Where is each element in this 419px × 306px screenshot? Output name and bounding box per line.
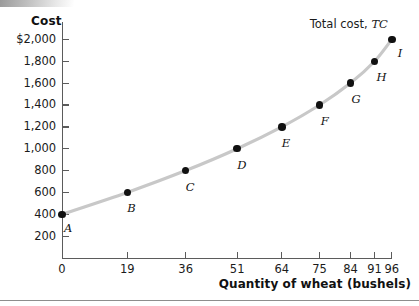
data-point-i <box>388 36 396 44</box>
data-point-d <box>233 145 241 153</box>
bottom-rule <box>0 300 419 301</box>
x-axis-title: Quantity of wheat (bushels) <box>219 277 411 291</box>
x-tick <box>350 252 351 258</box>
y-tick <box>63 83 69 84</box>
x-tick-label: 91 <box>367 262 382 276</box>
series-annotation: Total cost, TC <box>310 17 388 31</box>
data-point-g <box>347 79 355 87</box>
x-tick-label: 51 <box>230 262 245 276</box>
x-tick-label: 19 <box>120 262 135 276</box>
x-tick-label: 64 <box>275 262 290 276</box>
x-tick-label: 36 <box>178 262 193 276</box>
x-tick <box>237 252 238 258</box>
series-annotation-symbol: TC <box>371 17 387 31</box>
data-point-label-f: F <box>321 114 329 128</box>
data-point-f <box>316 101 324 109</box>
chart-figure: Cost Quantity of wheat (bushels) 2004006… <box>0 0 419 306</box>
data-point-h <box>371 58 379 66</box>
x-tick-label: 75 <box>312 262 327 276</box>
data-point-label-i: I <box>398 46 403 60</box>
data-point-label-h: H <box>377 70 387 84</box>
y-tick-label: 1,600 <box>0 76 56 90</box>
y-tick <box>63 236 69 237</box>
y-tick <box>63 104 69 105</box>
x-tick <box>374 252 375 258</box>
y-tick-label: 200 <box>0 229 56 243</box>
y-tick <box>63 148 69 149</box>
x-tick <box>185 252 186 258</box>
y-tick-label: 1,000 <box>0 141 56 155</box>
y-tick-label: 600 <box>0 185 56 199</box>
x-tick-label: 0 <box>58 262 65 276</box>
data-point-label-d: D <box>237 158 246 172</box>
y-tick-label: 400 <box>0 207 56 221</box>
x-tick-label: 96 <box>384 262 399 276</box>
plot-area: Cost Quantity of wheat (bushels) 2004006… <box>0 0 419 306</box>
x-tick <box>281 252 282 258</box>
x-tick <box>319 252 320 258</box>
data-point-label-c: C <box>186 180 195 194</box>
data-point-b <box>124 189 132 197</box>
y-tick <box>63 126 69 127</box>
data-point-c <box>182 167 190 175</box>
y-tick-label: 1,400 <box>0 97 56 111</box>
x-axis-line <box>62 258 392 259</box>
x-tick <box>127 252 128 258</box>
y-tick <box>63 192 69 193</box>
x-tick <box>391 252 392 258</box>
data-point-label-e: E <box>282 136 290 150</box>
y-tick-label: 800 <box>0 163 56 177</box>
y-tick <box>63 61 69 62</box>
y-axis-title: Cost <box>31 14 62 28</box>
series-annotation-prefix: Total cost, <box>310 17 372 31</box>
y-tick-label: $2,000 <box>0 32 56 46</box>
y-tick <box>63 39 69 40</box>
data-point-a <box>58 211 66 219</box>
y-tick <box>63 170 69 171</box>
data-point-e <box>278 123 286 131</box>
x-tick-label: 84 <box>343 262 358 276</box>
y-tick-label: 1,800 <box>0 54 56 68</box>
data-point-label-b: B <box>127 201 135 215</box>
y-tick-label: 1,200 <box>0 119 56 133</box>
data-point-label-g: G <box>352 92 361 106</box>
data-point-label-a: A <box>64 221 72 235</box>
